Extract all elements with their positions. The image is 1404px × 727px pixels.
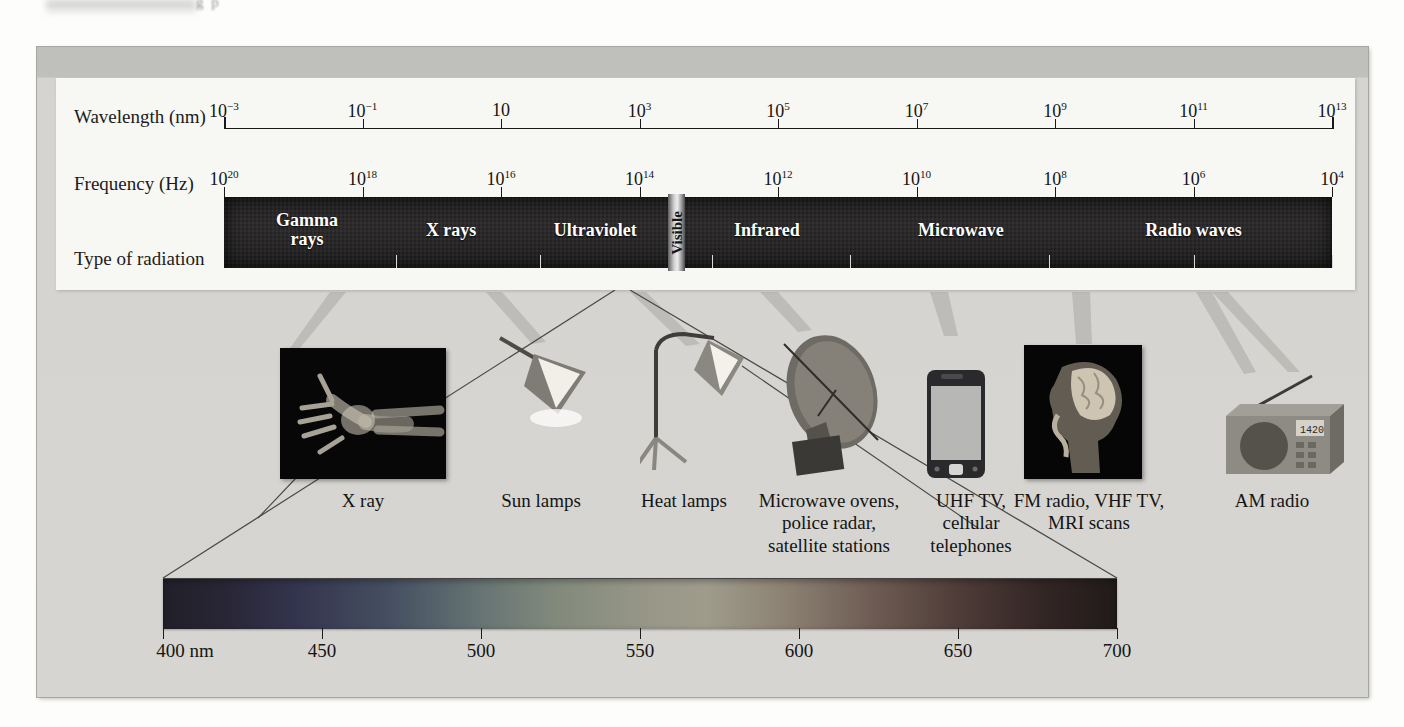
xray-hand-image [280, 348, 446, 479]
wavelength-tickmark-5 [917, 119, 918, 129]
wavelength-tickmark-1 [363, 119, 364, 129]
page-scan-smudge [46, 0, 196, 14]
type-of-radiation-label: Type of radiation [74, 248, 205, 270]
band-divider-4 [1049, 255, 1050, 268]
band-label-infrared: Infrared [734, 221, 800, 240]
visible-spectrum-gradient[interactable] [163, 578, 1117, 629]
band-divider-6 [1332, 255, 1333, 268]
caption-fm: FM radio, VHF TV, MRI scans [1014, 490, 1164, 535]
band-divider-0 [396, 255, 397, 268]
wavelength-tickmark-3 [640, 119, 641, 129]
frequency-tickmark-6 [1055, 187, 1056, 197]
frequency-tickmark-8 [1332, 187, 1333, 197]
band-label-radio-waves: Radio waves [1145, 221, 1242, 240]
xray-hand-graphic [280, 348, 446, 479]
heat-lamp-image [640, 330, 760, 475]
caption-xray: X ray [342, 490, 385, 512]
cell-phone-image [925, 368, 987, 480]
caption-microwave: Microwave ovens, police radar, satellite… [759, 490, 899, 557]
visible-band-label: Visible [668, 211, 685, 255]
band-label-ultraviolet: Ultraviolet [554, 221, 637, 240]
wavelength-tickmark-4 [778, 119, 779, 129]
caption-heatlamps: Heat lamps [641, 490, 727, 512]
visible-light-strip[interactable]: Visible [668, 194, 685, 271]
wavelength-tickmark-0 [224, 117, 226, 129]
caption-uhf: UHF TV, cellular telephones [930, 490, 1011, 557]
band-divider-3 [850, 255, 851, 268]
wavelength-tickmark-8 [1332, 117, 1334, 129]
band-label-gamma-rays: Gamma rays [276, 211, 338, 249]
page-cropped-text: g p [196, 0, 516, 10]
band-divider-5 [1194, 255, 1195, 268]
frequency-tickmark-7 [1194, 187, 1195, 197]
frequency-tickmark-1 [363, 187, 364, 197]
frequency-tickmark-2 [501, 187, 502, 197]
frequency-tickmark-0 [224, 187, 225, 197]
electromagnetic-band[interactable]: Visible Gamma raysX raysUltravioletInfra… [224, 197, 1332, 268]
sun-lamp-image [494, 332, 602, 442]
band-divider-2 [712, 255, 713, 268]
wavelength-tickmark-6 [1055, 119, 1056, 129]
wavelength-tickmark-2 [501, 119, 502, 129]
wavelength-axis-label: Wavelength (nm) [74, 106, 206, 128]
frequency-tickmark-3 [640, 187, 641, 197]
wavelength-tick-2: 10 [492, 100, 510, 121]
band-label-microwave: Microwave [918, 221, 1004, 240]
am-radio-image: 1420 [1216, 358, 1346, 478]
frequency-tickmark-5 [917, 187, 918, 197]
frequency-tickmark-4 [778, 187, 779, 197]
spectrum-scale-panel: Wavelength (nm) Frequency (Hz) Type of r… [56, 78, 1355, 290]
wavelength-tickmark-7 [1194, 119, 1195, 129]
frequency-axis-label: Frequency (Hz) [74, 173, 194, 195]
svg-text:1420: 1420 [1300, 425, 1324, 436]
caption-am: AM radio [1235, 490, 1309, 512]
band-label-x-rays: X rays [426, 221, 477, 240]
mri-scan-image [1024, 345, 1142, 479]
band-divider-1 [540, 255, 541, 268]
caption-sunlamps: Sun lamps [501, 490, 581, 512]
wavelength-axis-line [224, 128, 1332, 129]
satellite-dish-image [760, 330, 910, 480]
mri-head-graphic [1024, 345, 1142, 479]
